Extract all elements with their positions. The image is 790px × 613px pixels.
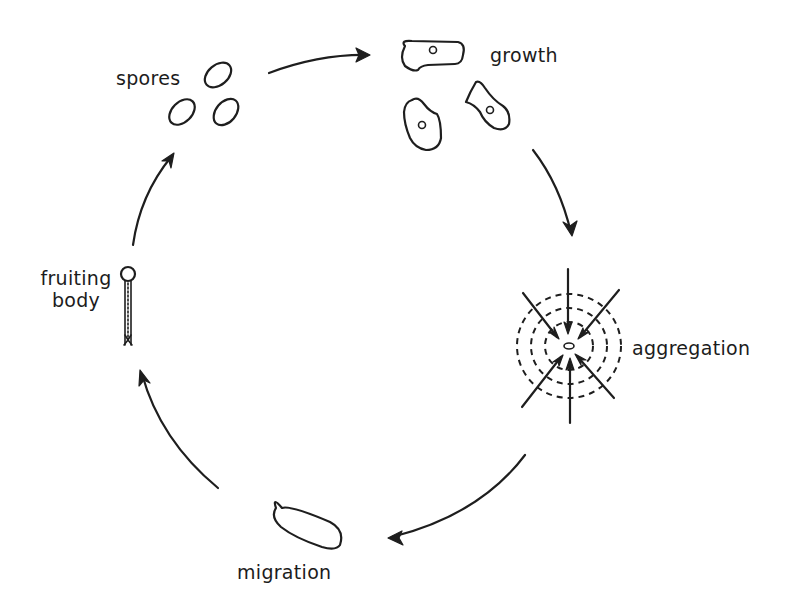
label-spores: spores bbox=[116, 67, 180, 89]
slug-icon bbox=[274, 502, 341, 549]
arrow-spores-to-growth bbox=[269, 48, 370, 73]
arrow-fruiting-body-to-spores bbox=[133, 153, 174, 245]
label-migration: migration bbox=[237, 561, 331, 583]
fruiting-body-icon bbox=[121, 267, 135, 345]
life-cycle-diagram: spores growth aggregation migration frui… bbox=[0, 0, 790, 613]
arrow-migration-to-fruiting-body bbox=[139, 370, 218, 488]
diagram-canvas bbox=[0, 0, 790, 613]
arrow-aggregation-to-migration bbox=[388, 455, 525, 545]
label-fruiting-line2: body bbox=[36, 289, 116, 311]
aggregation-center-icon bbox=[517, 269, 621, 423]
arrow-growth-to-aggregation bbox=[533, 150, 577, 236]
label-aggregation: aggregation bbox=[632, 337, 750, 359]
label-fruiting-line1: fruiting bbox=[36, 267, 116, 289]
label-fruiting-body: fruiting body bbox=[36, 267, 116, 311]
label-growth: growth bbox=[490, 44, 558, 66]
